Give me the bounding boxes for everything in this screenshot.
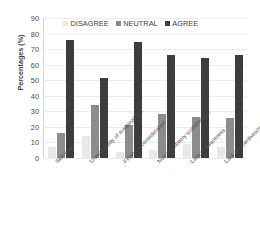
- legend-swatch-neutral: [116, 21, 121, 26]
- y-tick-label: 40: [31, 91, 39, 100]
- bar-agree[interactable]: [66, 40, 74, 158]
- chart-legend: DISAGREE NEUTRAL AGREE: [63, 19, 198, 28]
- legend-item-neutral[interactable]: NEUTRAL: [116, 19, 158, 28]
- bar-disagree[interactable]: [183, 144, 191, 158]
- y-tick-label: 90: [31, 14, 39, 23]
- y-tick-label: 30: [31, 107, 39, 116]
- y-tick-label: 10: [31, 138, 39, 147]
- bar-group: [78, 18, 112, 158]
- y-tick-label: 80: [31, 29, 39, 38]
- bar-group: [44, 18, 78, 158]
- y-axis-title: Percentages (%): [16, 21, 25, 105]
- y-tick-label: 60: [31, 60, 39, 69]
- legend-swatch-agree: [165, 21, 170, 26]
- y-tick-label: 20: [31, 122, 39, 131]
- bar-disagree[interactable]: [82, 136, 90, 158]
- y-tick-label: 50: [31, 76, 39, 85]
- legend-label-disagree: DISAGREE: [71, 19, 109, 28]
- bar-disagree[interactable]: [116, 152, 124, 158]
- legend-label-neutral: NEUTRAL: [123, 19, 158, 28]
- bar-disagree[interactable]: [149, 150, 157, 158]
- legend-item-agree[interactable]: AGREE: [165, 19, 198, 28]
- bar-disagree[interactable]: [48, 147, 56, 158]
- legend-swatch-disagree: [63, 21, 68, 26]
- legend-label-agree: AGREE: [172, 19, 198, 28]
- gridline: [43, 158, 247, 159]
- y-tick-label: 0: [35, 154, 39, 163]
- legend-item-disagree[interactable]: DISAGREE: [63, 19, 109, 28]
- bar-chart: Percentages (%) 0102030405060708090 DISA…: [0, 0, 260, 236]
- x-axis-labels: Skill levelUnavailability of sustainable…: [44, 160, 247, 232]
- bar-disagree[interactable]: [217, 147, 225, 158]
- y-tick-label: 70: [31, 45, 39, 54]
